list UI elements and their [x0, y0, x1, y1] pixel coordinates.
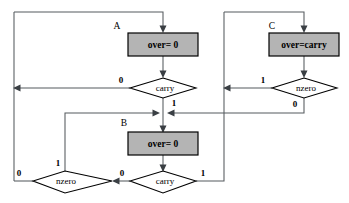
state-label-c: C [269, 21, 275, 31]
process-box-b-label: over= 0 [148, 139, 179, 149]
flowchart-canvas: over= 0 A carry 0 1 over=carry C nzero 1… [0, 0, 349, 203]
flowchart-svg: over= 0 A carry 0 1 over=carry C nzero 1… [0, 0, 349, 203]
edge-label-b-carry-zero: 0 [120, 168, 125, 178]
edge-c-nzero-zero [172, 98, 304, 113]
arrowhead-c-nzero-zero [167, 110, 175, 117]
state-label-a: A [114, 21, 121, 31]
edge-loop-to-a [14, 12, 163, 28]
edge-label-b-carry-one: 1 [201, 168, 206, 178]
decision-diamond-b-carry-label: carry [156, 176, 175, 186]
decision-diamond-a-carry-label: carry [156, 83, 175, 93]
edge-top-to-box-c [224, 12, 304, 28]
edge-label-a-carry-one: 1 [172, 98, 177, 108]
edge-label-a-carry-zero: 0 [119, 75, 124, 85]
arrowhead-b-nzero-one [153, 110, 161, 117]
arrowhead-box-c-to-diamond-c [301, 71, 308, 79]
decision-diamond-c-nzero-label: nzero [296, 83, 316, 93]
process-box-a-label: over= 0 [148, 40, 179, 50]
arrowhead-into-box-c [301, 26, 308, 34]
arrowhead-into-box-a [160, 26, 167, 34]
state-label-b: B [121, 118, 127, 128]
decision-diamond-b-nzero-label: nzero [56, 176, 76, 186]
edge-label-b-nzero-zero: 0 [17, 168, 22, 178]
process-box-c-label: over=carry [281, 40, 327, 50]
arrowhead-b-carry-zero [112, 178, 120, 185]
arrowhead-box-a-to-diamond-a [160, 71, 167, 79]
edge-label-c-nzero-one: 1 [261, 75, 266, 85]
edge-label-c-nzero-zero: 0 [293, 99, 298, 109]
edge-label-b-nzero-one: 1 [56, 158, 61, 168]
